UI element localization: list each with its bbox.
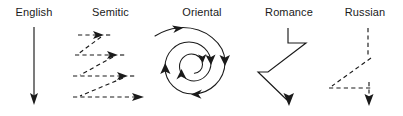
- semitic-diagram: [68, 22, 153, 116]
- panel-russian: Russian: [327, 0, 403, 116]
- russian-diagonal-segment: [332, 58, 371, 86]
- oriental-arrowhead-inner-left-icon: [176, 69, 186, 79]
- russian-diagram: [327, 22, 403, 116]
- oriental-arrowhead-inner-right-icon: [206, 55, 216, 66]
- panel-romance: Romance: [251, 0, 327, 116]
- thought-patterns-figure: English Semitic: [0, 0, 403, 116]
- oriental-arrowhead-bottom-icon: [191, 90, 202, 99]
- semitic-diagonal-3: [80, 78, 123, 96]
- panel-semitic: Semitic: [68, 0, 153, 116]
- oriental-arrowhead-core-icon: [198, 54, 206, 63]
- panel-label-romance: Romance: [251, 6, 327, 19]
- romance-zigzag-path: [258, 28, 306, 100]
- oriental-diagram: [153, 22, 251, 116]
- semitic-diagonal-2: [80, 57, 113, 75]
- english-diagram: [0, 22, 68, 116]
- panel-oriental: Oriental: [153, 0, 251, 116]
- romance-diagram: [251, 22, 327, 116]
- panel-label-semitic: Semitic: [68, 6, 153, 19]
- oriental-spiral-path: [165, 28, 225, 94]
- oriental-arrowhead-outer-top-icon: [172, 25, 184, 33]
- panel-label-english: English: [0, 6, 68, 19]
- panel-label-oriental: Oriental: [153, 6, 251, 19]
- semitic-diagonal-1: [78, 37, 101, 54]
- russian-arrowhead-icon: [365, 94, 374, 106]
- romance-arrowhead-icon: [284, 93, 295, 106]
- panel-english: English: [0, 0, 68, 116]
- panel-label-russian: Russian: [327, 6, 403, 19]
